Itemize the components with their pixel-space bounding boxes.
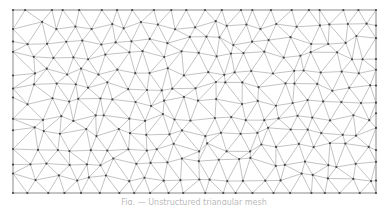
mesh-edge [136, 163, 150, 164]
mesh-edge [34, 57, 54, 58]
mesh-edge [96, 115, 103, 136]
mesh-vertex [214, 117, 216, 119]
mesh-edge [164, 101, 174, 120]
mesh-edge [284, 58, 294, 71]
mesh-vertex [284, 164, 286, 166]
mesh-vertex [88, 176, 90, 178]
mesh-vertex [351, 58, 353, 60]
mesh-edge [227, 134, 241, 151]
mesh-vertex [230, 116, 232, 118]
mesh-edge [353, 103, 361, 115]
mesh-edge [317, 72, 320, 83]
mesh-edge [60, 134, 70, 151]
mesh-edge [328, 178, 340, 193]
mesh-edge [311, 175, 312, 193]
mesh-edge [361, 103, 369, 120]
mesh-edge [259, 87, 276, 106]
mesh-edge [225, 72, 234, 82]
mesh-edge [242, 82, 258, 87]
mesh-vertex [174, 28, 176, 30]
mesh-vertex [322, 100, 324, 102]
mesh-vertex [72, 120, 74, 122]
mesh-vertex [355, 135, 357, 137]
mesh-edge [182, 51, 199, 53]
mesh-edge [190, 118, 215, 121]
mesh-vertex [12, 74, 14, 76]
mesh-edge [36, 175, 59, 180]
mesh-vertex [80, 192, 82, 194]
mesh-edge [112, 99, 129, 118]
mesh-vertex [62, 9, 64, 11]
mesh-edge [53, 58, 67, 75]
mesh-vertex [80, 67, 82, 69]
mesh-edge [367, 24, 376, 26]
mesh-vertex [272, 192, 274, 194]
mesh-edge [258, 87, 259, 101]
mesh-edge [158, 25, 175, 30]
mesh-edge [171, 10, 175, 29]
mesh-edge [264, 118, 278, 120]
mesh-edge [163, 101, 164, 114]
mesh-edge [252, 40, 269, 42]
mesh-vertex [264, 180, 266, 182]
mesh-edge [294, 71, 303, 84]
mesh-edge [346, 36, 357, 43]
mesh-edge [112, 89, 128, 99]
mesh-vertex [87, 87, 89, 89]
mesh-edge [105, 52, 129, 54]
mesh-edge [279, 118, 291, 129]
mesh-vertex [76, 180, 78, 182]
mesh-edge [164, 162, 168, 180]
mesh-edge [182, 130, 205, 136]
mesh-edge [42, 10, 52, 22]
mesh-edge [13, 164, 30, 173]
mesh-edge [308, 100, 324, 101]
mesh-edge [199, 143, 207, 151]
mesh-vertex [90, 149, 92, 151]
mesh-edge [369, 147, 376, 162]
mesh-edge [294, 84, 307, 101]
mesh-edge [273, 71, 294, 74]
mesh-edge [208, 56, 216, 72]
mesh-edge [13, 127, 35, 130]
mesh-edge [182, 159, 199, 180]
mesh-vertex [12, 28, 14, 30]
mesh-vertex [307, 129, 309, 131]
mesh-edge [57, 84, 76, 85]
mesh-edge [305, 147, 314, 162]
mesh-vertex [34, 72, 36, 74]
mesh-edge [348, 24, 357, 36]
mesh-edge [196, 88, 198, 100]
mesh-edge [330, 135, 343, 143]
mesh-edge [61, 102, 69, 117]
mesh-edge [164, 57, 168, 68]
mesh-vertex [375, 180, 377, 182]
mesh-vertex [72, 56, 74, 58]
mesh-edge [298, 116, 308, 130]
mesh-edge [210, 180, 228, 181]
mesh-edge [302, 174, 312, 193]
mesh-edge [276, 165, 285, 166]
mesh-edge [332, 72, 341, 91]
mesh-edge [88, 82, 107, 87]
mesh-edge [312, 118, 330, 121]
mesh-vertex [292, 102, 294, 104]
mesh-edge [89, 175, 106, 177]
mesh-vertex [128, 51, 130, 53]
mesh-vertex [46, 43, 48, 45]
mesh-edge [27, 104, 42, 120]
mesh-edge [135, 51, 142, 73]
mesh-edge [321, 133, 330, 143]
mesh-edge [269, 37, 291, 40]
mesh-vertex [131, 9, 133, 11]
mesh-edge [227, 151, 240, 159]
mesh-edge [311, 44, 329, 52]
mesh-vertex [298, 143, 300, 145]
mesh-edge [13, 119, 43, 120]
mesh-edge [57, 74, 68, 83]
mesh-edge [129, 52, 135, 73]
mesh-edge [265, 181, 273, 193]
mesh-edge [219, 26, 226, 38]
mesh-edge [343, 115, 354, 135]
mesh-edge [311, 25, 320, 44]
